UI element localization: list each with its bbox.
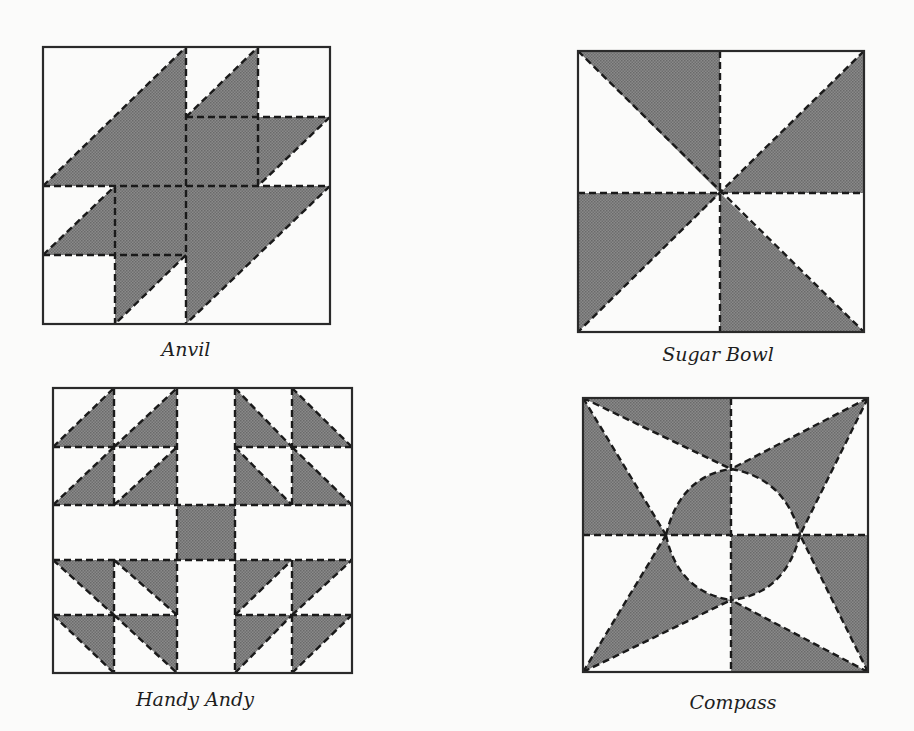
anvil-caption: Anvil bbox=[162, 338, 211, 360]
compass-block bbox=[583, 398, 868, 672]
sugar-bowl-block bbox=[578, 51, 864, 332]
handy-andy-center-square bbox=[177, 505, 235, 560]
handy-andy-block bbox=[53, 388, 352, 673]
anvil-lower-square bbox=[115, 186, 186, 255]
anvil-upper-square bbox=[186, 117, 258, 186]
anvil-block bbox=[43, 47, 330, 324]
quilt-blocks-figure bbox=[0, 0, 914, 731]
compass-caption: Compass bbox=[690, 691, 777, 713]
sugar-bowl-caption: Sugar Bowl bbox=[662, 343, 774, 365]
handy-andy-caption: Handy Andy bbox=[136, 688, 254, 710]
